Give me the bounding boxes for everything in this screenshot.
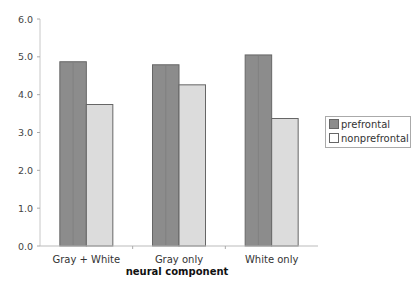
bar-nonprefrontal	[179, 85, 206, 246]
y-tick-label: 2.0	[18, 165, 33, 176]
legend-item-prefrontal: prefrontal	[326, 117, 410, 131]
x-category-label: White only	[245, 254, 298, 265]
legend-item-nonprefrontal: nonprefrontal	[326, 131, 410, 145]
legend-swatch-prefrontal	[329, 119, 339, 129]
y-tick-label: 4.0	[18, 89, 33, 100]
y-tick-label: 6.0	[18, 14, 33, 25]
x-category-label: Gray only	[155, 254, 203, 265]
y-tick-label: 5.0	[18, 51, 33, 62]
y-tick-label: 1.0	[18, 203, 33, 214]
legend-label: prefrontal	[341, 119, 390, 130]
legend-label: nonprefrontal	[341, 133, 409, 144]
y-tick-label: 3.0	[18, 127, 33, 138]
bar-nonprefrontal	[86, 105, 113, 246]
x-axis: Gray + WhiteGray onlyWhite only	[40, 246, 318, 265]
y-tick-label: 0.0	[18, 241, 33, 252]
x-axis-title: neural component	[126, 266, 229, 277]
legend-swatch-nonprefrontal	[329, 133, 339, 143]
legend: prefrontal nonprefrontal	[325, 116, 411, 148]
y-axis: 0.01.02.03.04.05.06.0	[18, 14, 40, 252]
x-category-label: Gray + White	[52, 254, 120, 265]
bars	[60, 55, 298, 246]
bar-nonprefrontal	[272, 119, 299, 246]
